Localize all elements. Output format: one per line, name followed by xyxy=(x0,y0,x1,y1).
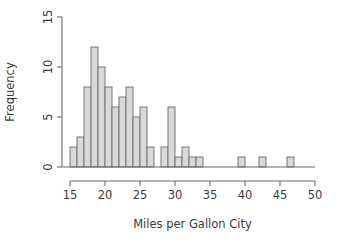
histogram-bar xyxy=(196,157,203,167)
histogram-plot: 0510151520253035404550Miles per Gallon C… xyxy=(0,0,345,243)
histogram-bar xyxy=(168,107,175,167)
histogram-bar xyxy=(182,147,189,167)
histogram-bar xyxy=(84,87,91,167)
histogram-bar xyxy=(238,157,245,167)
histogram-figure: 0510151520253035404550Miles per Gallon C… xyxy=(0,0,345,243)
histogram-bar xyxy=(133,117,140,167)
x-tick-label: 30 xyxy=(168,188,183,202)
x-tick-label: 35 xyxy=(203,188,218,202)
y-tick-label: 10 xyxy=(41,60,55,75)
x-tick-label: 50 xyxy=(308,188,323,202)
x-tick-label: 20 xyxy=(98,188,113,202)
x-tick-label: 45 xyxy=(273,188,288,202)
y-tick-label: 15 xyxy=(41,10,55,25)
y-axis-title: Frequency xyxy=(3,62,17,122)
axes-group: 0510151520253035404550 xyxy=(41,10,322,202)
histogram-bar xyxy=(126,87,133,167)
histogram-bar xyxy=(70,147,77,167)
histogram-bar xyxy=(91,47,98,167)
histogram-bar xyxy=(259,157,266,167)
histogram-bar xyxy=(147,147,154,167)
histogram-bar xyxy=(189,157,196,167)
histogram-bar xyxy=(77,137,84,167)
histogram-bar xyxy=(98,67,105,167)
x-tick-label: 40 xyxy=(238,188,253,202)
bars-group xyxy=(70,47,294,167)
x-axis-title: Miles per Gallon City xyxy=(133,217,252,231)
y-tick-label: 5 xyxy=(41,113,55,120)
histogram-bar xyxy=(105,87,112,167)
x-tick-label: 25 xyxy=(133,188,148,202)
x-tick-label: 15 xyxy=(63,188,78,202)
histogram-bar xyxy=(112,107,119,167)
histogram-bar xyxy=(175,157,182,167)
histogram-bar xyxy=(287,157,294,167)
histogram-bar xyxy=(140,107,147,167)
histogram-bar xyxy=(161,147,168,167)
histogram-bar xyxy=(119,97,126,167)
y-tick-label: 0 xyxy=(41,163,55,170)
